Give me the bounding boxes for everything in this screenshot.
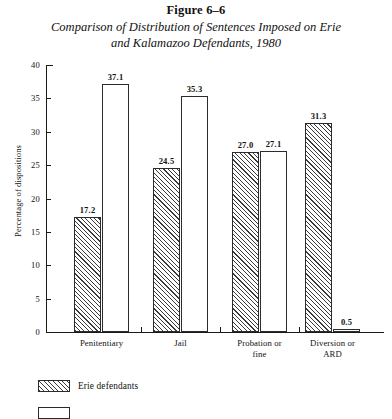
y-axis-tick: [46, 299, 51, 300]
x-axis-category-label-line: Probation or: [220, 338, 300, 349]
legend-item-kalamazoo: [38, 407, 78, 419]
figure-heading: Figure 6–6 Comparison of Distribution of…: [0, 0, 392, 51]
y-axis-tick-label: 5: [14, 295, 40, 304]
x-axis-category-label-line: Penitentiary: [62, 338, 142, 349]
bar-erie: [305, 123, 332, 332]
legend-item-erie: Erie defendants: [38, 380, 138, 392]
y-axis-tick: [46, 98, 51, 99]
bar-value-label: 37.1: [96, 73, 135, 82]
bar-kalamazoo: [102, 84, 129, 332]
legend-label-erie: Erie defendants: [78, 381, 138, 391]
figure-title: Comparison of Distribution of Sentences …: [0, 18, 392, 51]
bar-value-label: 31.3: [299, 112, 338, 121]
chart-legend: Erie defendants: [0, 356, 392, 417]
y-axis-tick: [46, 265, 51, 266]
y-axis-tick-label: 10: [14, 261, 40, 270]
y-axis-tick: [46, 132, 51, 133]
figure-title-line-2: and Kalamazoo Defendants, 1980: [34, 36, 358, 52]
bar-chart: Percentage of dispositions 0510152025303…: [0, 56, 392, 356]
bar-kalamazoo: [333, 329, 360, 332]
bar-value-label: 27.1: [254, 140, 293, 149]
y-axis-tick-label: 20: [14, 195, 40, 204]
bar-kalamazoo: [260, 151, 287, 332]
x-axis-category-label: Jail: [141, 338, 221, 349]
x-axis-category-label-line: Diversion or: [293, 338, 373, 349]
legend-swatch-erie: [38, 380, 70, 392]
x-axis-group-separator: [141, 327, 142, 333]
figure-title-line-1: Comparison of Distribution of Sentences …: [34, 20, 358, 36]
y-axis-tick-label: 25: [14, 161, 40, 170]
x-axis-group-separator: [220, 327, 221, 333]
x-axis-category-label-line: Jail: [141, 338, 221, 349]
y-axis-tick: [46, 65, 51, 66]
legend-swatch-kalamazoo: [38, 407, 70, 419]
x-axis-category-label: Penitentiary: [62, 338, 142, 349]
bar-erie: [153, 168, 180, 332]
y-axis-tick: [46, 232, 51, 233]
x-axis-group-separator: [299, 327, 300, 333]
bar-kalamazoo: [181, 96, 208, 332]
y-axis-tick-label: 0: [14, 328, 40, 337]
y-axis-tick: [46, 165, 51, 166]
y-axis-tick-label: 30: [14, 128, 40, 137]
figure-number: Figure 6–6: [0, 3, 392, 18]
y-axis-tick-label: 15: [14, 228, 40, 237]
y-axis-tick: [46, 199, 51, 200]
bar-value-label: 35.3: [175, 85, 214, 94]
y-axis-tick: [46, 332, 51, 333]
y-axis-tick-label: 35: [14, 94, 40, 103]
bar-value-label: 0.5: [327, 318, 366, 327]
bar-erie: [74, 217, 101, 332]
x-axis-line: [46, 332, 384, 333]
bar-erie: [232, 152, 259, 332]
y-axis-tick-label: 40: [14, 61, 40, 70]
